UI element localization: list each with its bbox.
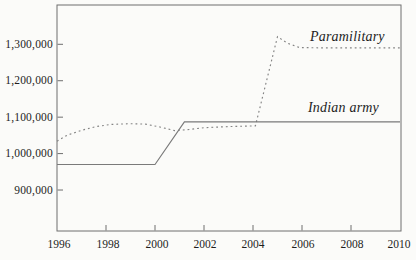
x-tick-label: 2008 (335, 238, 369, 251)
x-tick-label: 2006 (286, 238, 320, 251)
y-tick-label: 1,100,000 (0, 111, 53, 124)
y-tick-label: 1,300,000 (0, 38, 53, 51)
series-label-indian-army: Indian army (308, 100, 379, 115)
chart-figure: 1,300,000 1,200,000 1,100,000 1,000,000 … (0, 0, 416, 260)
x-tick-label: 2010 (382, 238, 416, 251)
x-tick-label: 1998 (91, 238, 125, 251)
y-tick-label: 900,000 (0, 184, 53, 197)
y-tick-label: 1,200,000 (0, 74, 53, 87)
x-tick-label: 1996 (42, 238, 76, 251)
x-tick-label: 2002 (188, 238, 222, 251)
series-line-indian-army (57, 122, 400, 165)
series-label-paramilitary: Paramilitary (310, 29, 385, 44)
series-line-paramilitary (57, 37, 400, 142)
x-tick-label: 2004 (236, 238, 270, 251)
x-tick-label: 2000 (140, 238, 174, 251)
y-tick-label: 1,000,000 (0, 147, 53, 160)
